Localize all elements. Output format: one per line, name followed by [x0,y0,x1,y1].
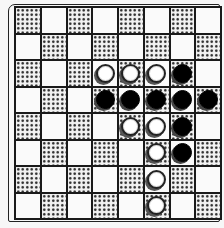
board-cell-r1-c6[interactable] [171,35,195,60]
white-disc-icon [147,170,166,189]
board-cell-r3-c7[interactable] [196,88,220,113]
board-cell-r4-c1[interactable] [42,114,66,139]
board-cell-r0-c7[interactable] [196,8,220,33]
board-cell-r3-c0[interactable] [16,88,40,113]
board-cell-r3-c4[interactable] [119,88,143,113]
board-cell-r2-c0[interactable] [16,61,40,86]
white-disc-icon [147,196,166,215]
board-cell-r5-c6[interactable] [171,141,195,166]
board-cell-r5-c5[interactable] [145,141,169,166]
board-cell-r4-c6[interactable] [171,114,195,139]
board-cell-r0-c5[interactable] [145,8,169,33]
black-disc-icon [173,64,192,83]
board-cell-r3-c5[interactable] [145,88,169,113]
board-cell-r6-c7[interactable] [196,167,220,192]
board-cell-r1-c4[interactable] [119,35,143,60]
white-disc-icon [96,64,115,83]
board-cell-r5-c7[interactable] [196,141,220,166]
board-cell-r7-c3[interactable] [93,194,117,219]
board-cell-r7-c6[interactable] [171,194,195,219]
board-cell-r2-c6[interactable] [171,61,195,86]
black-disc-icon [173,143,192,162]
board-cell-r2-c2[interactable] [68,61,92,86]
board-cell-r5-c0[interactable] [16,141,40,166]
black-disc-icon [173,90,192,109]
board-cell-r1-c0[interactable] [16,35,40,60]
board-cell-r4-c2[interactable] [68,114,92,139]
black-disc-icon [199,90,218,109]
board-cell-r2-c4[interactable] [119,61,143,86]
board-cell-r7-c4[interactable] [119,194,143,219]
board-cell-r0-c2[interactable] [68,8,92,33]
board-cell-r7-c2[interactable] [68,194,92,219]
board-cell-r2-c5[interactable] [145,61,169,86]
board-cell-r0-c0[interactable] [16,8,40,33]
board-cell-r1-c2[interactable] [68,35,92,60]
board-cell-r5-c3[interactable] [93,141,117,166]
board-cell-r5-c4[interactable] [119,141,143,166]
board-cell-r4-c3[interactable] [93,114,117,139]
black-disc-icon [121,90,140,109]
board-cell-r7-c7[interactable] [196,194,220,219]
board-cell-r7-c5[interactable] [145,194,169,219]
board-cell-r6-c1[interactable] [42,167,66,192]
board-cell-r6-c0[interactable] [16,167,40,192]
board-cell-r3-c1[interactable] [42,88,66,113]
black-disc-icon [173,117,192,136]
board-cell-r0-c3[interactable] [93,8,117,33]
board-cell-r0-c6[interactable] [171,8,195,33]
board-cell-r6-c2[interactable] [68,167,92,192]
board-cell-r2-c7[interactable] [196,61,220,86]
board-cell-r5-c2[interactable] [68,141,92,166]
board-cell-r4-c5[interactable] [145,114,169,139]
board-cell-r1-c3[interactable] [93,35,117,60]
white-disc-icon [147,143,166,162]
white-disc-icon [121,117,140,136]
board-cell-r6-c3[interactable] [93,167,117,192]
board-cell-r4-c7[interactable] [196,114,220,139]
board-cell-r1-c1[interactable] [42,35,66,60]
board-cell-r2-c3[interactable] [93,61,117,86]
board-cell-r4-c0[interactable] [16,114,40,139]
board-cell-r3-c3[interactable] [93,88,117,113]
board-cell-r4-c4[interactable] [119,114,143,139]
board-cell-r2-c1[interactable] [42,61,66,86]
board-cell-r5-c1[interactable] [42,141,66,166]
board-cell-r6-c4[interactable] [119,167,143,192]
white-disc-icon [147,117,166,136]
board-cell-r0-c1[interactable] [42,8,66,33]
black-disc-icon [96,90,115,109]
board-cell-r0-c4[interactable] [119,8,143,33]
board-cell-r7-c0[interactable] [16,194,40,219]
board-cell-r6-c6[interactable] [171,167,195,192]
white-disc-icon [121,64,140,83]
board-cell-r7-c1[interactable] [42,194,66,219]
black-disc-icon [147,90,166,109]
game-board[interactable] [14,6,222,220]
board-cell-r1-c7[interactable] [196,35,220,60]
board-cell-r3-c6[interactable] [171,88,195,113]
board-cell-r6-c5[interactable] [145,167,169,192]
white-disc-icon [147,64,166,83]
board-cell-r3-c2[interactable] [68,88,92,113]
board-cell-r1-c5[interactable] [145,35,169,60]
